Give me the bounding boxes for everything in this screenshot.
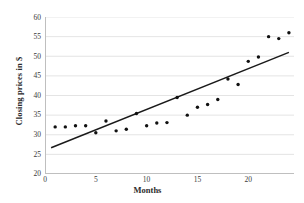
data-point xyxy=(165,121,168,124)
data-point xyxy=(145,124,148,127)
data-point xyxy=(287,31,290,34)
data-point xyxy=(64,125,67,128)
trendline xyxy=(51,52,289,147)
plot-area xyxy=(45,17,294,174)
y-tick-45: 45 xyxy=(20,72,41,80)
data-point xyxy=(267,35,270,38)
y-tick-60: 60 xyxy=(20,14,41,22)
data-point xyxy=(74,124,77,127)
data-point xyxy=(257,55,260,58)
data-point xyxy=(277,37,280,40)
data-point xyxy=(196,106,199,109)
data-point xyxy=(175,96,178,99)
data-point xyxy=(84,124,87,127)
data-point xyxy=(155,121,158,124)
x-tick-15: 15 xyxy=(187,176,207,184)
data-point xyxy=(53,125,56,128)
plot-svg xyxy=(45,17,294,174)
data-point xyxy=(236,83,239,86)
data-point xyxy=(216,98,219,101)
data-point xyxy=(226,77,229,80)
x-tick-0: 0 xyxy=(35,176,55,184)
x-tick-5: 5 xyxy=(86,176,106,184)
y-tick-40: 40 xyxy=(20,92,41,100)
scatter-chart: Closing prices in $ 60 55 50 45 40 35 30… xyxy=(0,0,304,203)
y-tick-50: 50 xyxy=(20,53,41,61)
data-point xyxy=(104,119,107,122)
x-tick-10: 10 xyxy=(137,176,157,184)
data-point xyxy=(125,128,128,131)
data-point xyxy=(186,113,189,116)
data-point xyxy=(247,60,250,63)
data-point xyxy=(135,112,138,115)
y-tick-55: 55 xyxy=(20,33,41,41)
y-tick-25: 25 xyxy=(20,151,41,159)
y-tick-30: 30 xyxy=(20,131,41,139)
y-tick-35: 35 xyxy=(20,111,41,119)
data-point xyxy=(94,131,97,134)
x-tick-20: 20 xyxy=(238,176,258,184)
data-point xyxy=(206,103,209,106)
data-point xyxy=(114,129,117,132)
x-axis-title: Months xyxy=(45,185,250,195)
